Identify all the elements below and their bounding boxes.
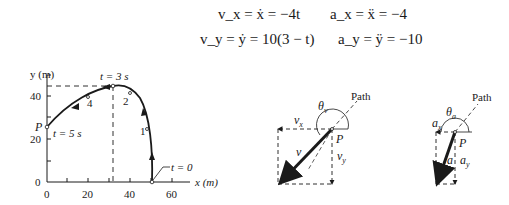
marker-1: 1 xyxy=(140,125,146,137)
velocity-path-label: Path xyxy=(351,90,371,102)
ax-label: ax xyxy=(432,116,442,132)
x-tick-20: 20 xyxy=(82,188,94,200)
marker-4: 4 xyxy=(87,97,93,109)
label-P: P xyxy=(34,120,43,134)
y-tick-40: 40 xyxy=(30,90,42,102)
vy-label: vy xyxy=(337,149,346,165)
x-tick-0: 0 xyxy=(44,188,50,200)
x-tick-60: 60 xyxy=(166,188,178,200)
trajectory-graph: y (m) x (m) 0 20 40 0 20 40 60 t = 3 s t… xyxy=(30,68,218,200)
label-t5: t = 5 s xyxy=(53,127,82,139)
a-label: a xyxy=(447,153,453,167)
velocity-vector-arrow-icon xyxy=(282,129,332,181)
theta-a-label: θa xyxy=(446,105,456,121)
y-axis-label: y (m) xyxy=(30,68,54,81)
direction-arrow-icon xyxy=(149,152,155,160)
y-tick-0: 0 xyxy=(35,176,41,188)
acceleration-P-label: P xyxy=(458,136,467,150)
velocity-P-label: P xyxy=(335,132,344,146)
vx-label: vx xyxy=(294,113,303,129)
x-axis-label: x (m) xyxy=(194,176,218,189)
marker-2: 2 xyxy=(123,95,129,107)
acceleration-diagram: Path θa ax ay a P xyxy=(432,91,492,184)
ay-label: ay xyxy=(460,153,470,169)
y-tick-20: 20 xyxy=(30,133,42,145)
label-t3: t = 3 s xyxy=(100,70,129,82)
acceleration-path-label: Path xyxy=(472,91,492,103)
v-label: v xyxy=(296,145,302,159)
x-tick-40: 40 xyxy=(124,188,136,200)
figure-canvas: y (m) x (m) 0 20 40 0 20 40 60 t = 3 s t… xyxy=(0,0,509,205)
theta-v-label: θv xyxy=(318,99,328,115)
velocity-diagram: Path θv vx vy v P xyxy=(278,90,371,184)
label-t0: t = 0 xyxy=(171,161,193,173)
